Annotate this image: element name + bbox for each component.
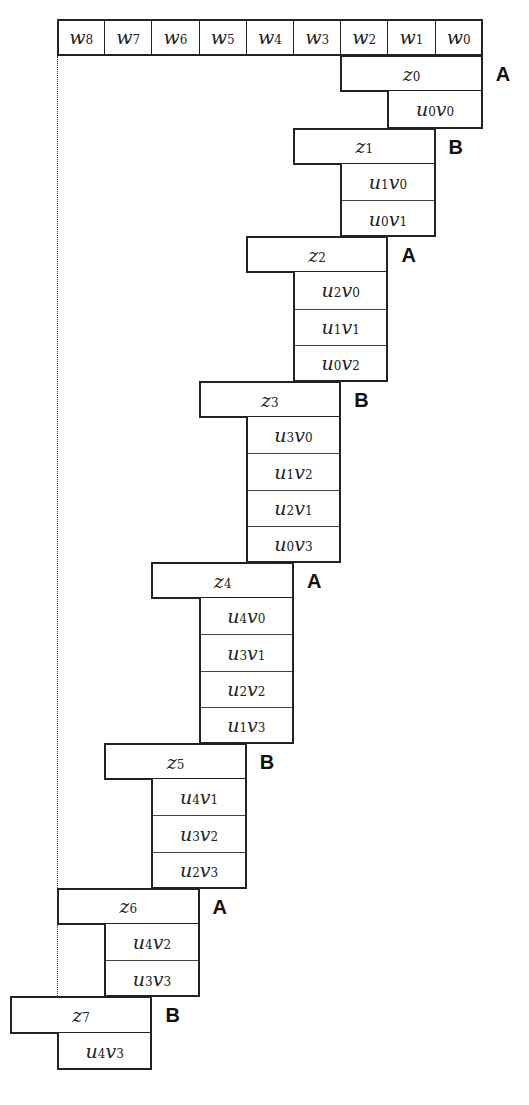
register-tag-A: A <box>213 897 227 917</box>
register-tag-B: B <box>165 1005 179 1025</box>
product-term-u0v1: u0v1 <box>342 200 433 236</box>
product-term-u1v2: u1v2 <box>248 453 339 489</box>
product-term-u1v0: u1v0 <box>342 164 433 200</box>
product-term-u0v0: u0v0 <box>389 91 480 127</box>
product-term-u0v2: u0v2 <box>295 345 386 381</box>
word-cell-w1: w1 <box>387 19 435 55</box>
register-tag-B: B <box>260 752 274 772</box>
word-cell-w3: w3 <box>293 19 341 55</box>
register-tag-A: A <box>496 64 510 84</box>
word-cell-w4: w4 <box>246 19 294 55</box>
product-term-u4v3: u4v3 <box>59 1033 150 1069</box>
product-term-u2v0: u2v0 <box>295 272 386 308</box>
word-cell-w2: w2 <box>340 19 388 55</box>
register-tag-A: A <box>401 245 415 265</box>
product-term-u4v0: u4v0 <box>201 598 292 634</box>
word-cell-w7: w7 <box>104 19 152 55</box>
register-tag-A: A <box>307 571 321 591</box>
product-term-u1v3: u1v3 <box>201 707 292 743</box>
partial-sum-z1: z1 <box>293 128 436 165</box>
product-term-u3v1: u3v1 <box>201 634 292 670</box>
multiplication-schedule-diagram: w8w7w6w5w4w3w2w1w0 z0Au0v0z1Bu1v0u0v1z2A… <box>0 0 529 1105</box>
word-cell-w6: w6 <box>151 19 199 55</box>
word-cell-w8: w8 <box>57 19 105 55</box>
product-term-u4v2: u4v2 <box>106 924 197 960</box>
partial-sum-z4: z4 <box>151 562 294 599</box>
partial-sum-z7: z7 <box>10 996 153 1033</box>
product-term-u2v2: u2v2 <box>201 671 292 707</box>
partial-sum-z5: z5 <box>104 743 247 780</box>
register-tag-B: B <box>354 390 368 410</box>
product-term-u3v2: u3v2 <box>153 815 244 851</box>
partial-sum-z2: z2 <box>246 236 389 273</box>
left-guide-dotted-line <box>57 56 58 996</box>
product-term-u2v1: u2v1 <box>248 490 339 526</box>
word-cell-w5: w5 <box>199 19 247 55</box>
word-cell-w0: w0 <box>435 19 483 55</box>
partial-sum-z3: z3 <box>199 381 342 418</box>
product-term-u3v0: u3v0 <box>248 417 339 453</box>
product-term-u4v1: u4v1 <box>153 779 244 815</box>
register-tag-B: B <box>449 137 463 157</box>
product-term-u3v3: u3v3 <box>106 960 197 996</box>
product-term-u2v3: u2v3 <box>153 852 244 888</box>
partial-sum-z0: z0 <box>340 55 483 92</box>
product-term-u0v3: u0v3 <box>248 526 339 562</box>
partial-sum-z6: z6 <box>57 888 200 925</box>
product-term-u1v1: u1v1 <box>295 309 386 345</box>
